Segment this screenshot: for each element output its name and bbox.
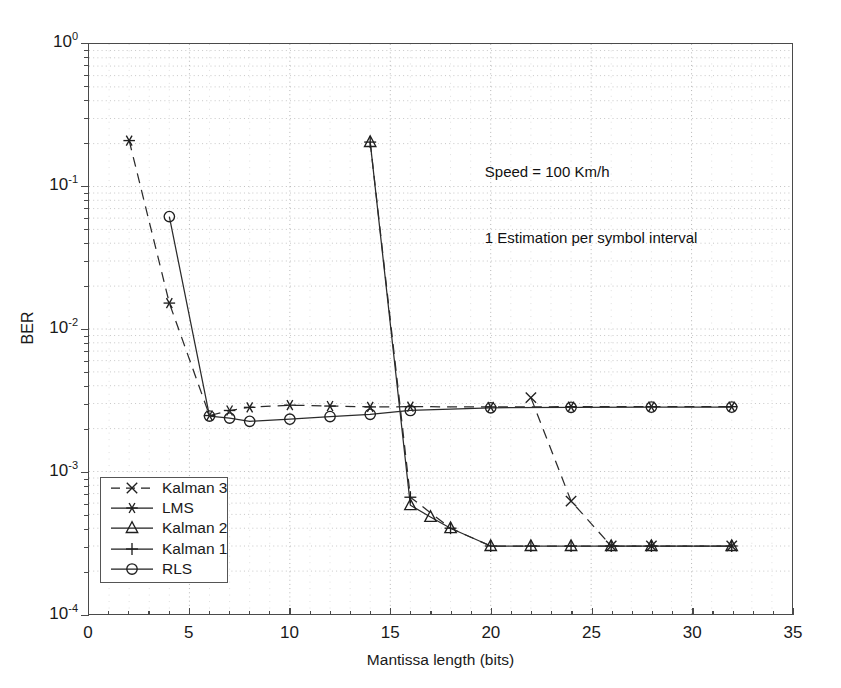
y-tick-mark xyxy=(84,351,89,352)
x-axis-title: Mantissa length (bits) xyxy=(88,651,793,669)
y-tick-mark xyxy=(84,200,89,201)
annotation-line-2: 1 Estimation per symbol interval xyxy=(485,227,698,249)
y-tick-mark xyxy=(84,479,89,480)
y-tick-mark xyxy=(84,57,89,58)
x-tick-mark xyxy=(390,608,391,615)
x-tick-mark xyxy=(491,608,492,615)
annotation-line-1: Speed = 100 Km/h xyxy=(485,161,698,183)
legend-item-lms[interactable]: LMS xyxy=(101,498,227,518)
x-minor-tick-mark xyxy=(632,611,633,615)
y-tick-mark xyxy=(84,143,89,144)
y-tick-mark xyxy=(84,404,89,405)
x-minor-tick-mark xyxy=(712,611,713,615)
x-minor-tick-mark xyxy=(370,611,371,615)
x-minor-tick-mark xyxy=(652,611,653,615)
x-minor-tick-mark xyxy=(229,611,230,615)
y-tick-mark xyxy=(84,386,89,387)
y-tick-mark xyxy=(84,572,89,573)
y-tick-label-2: 10-2 xyxy=(49,319,78,336)
x-minor-tick-mark xyxy=(511,611,512,615)
x-tick-mark xyxy=(592,608,593,615)
y-tick-mark xyxy=(84,343,89,344)
x-minor-tick-mark xyxy=(451,611,452,615)
figure: 10010-110-210-310-4 05101520253035 BER M… xyxy=(0,0,841,688)
legend-label: RLS xyxy=(162,560,192,578)
series-kalman-3 xyxy=(526,392,737,551)
legend-label: LMS xyxy=(162,499,194,517)
y-tick-mark xyxy=(81,472,89,473)
y-tick-mark xyxy=(84,193,89,194)
y-tick-mark xyxy=(84,286,89,287)
legend-item-kalman-2[interactable]: Kalman 2 xyxy=(101,518,227,538)
x-minor-tick-mark xyxy=(612,611,613,615)
x-tick-label-7: 35 xyxy=(768,624,818,641)
x-tick-label-0: 0 xyxy=(63,624,113,641)
x-minor-tick-mark xyxy=(108,611,109,615)
x-minor-tick-mark xyxy=(672,611,673,615)
x-minor-tick-mark xyxy=(148,611,149,615)
x-minor-tick-mark xyxy=(753,611,754,615)
y-tick-mark xyxy=(81,43,89,44)
y-tick-mark xyxy=(84,118,89,119)
y-tick-mark xyxy=(84,486,89,487)
x-minor-tick-mark xyxy=(350,611,351,615)
y-tick-mark xyxy=(84,75,89,76)
y-tick-mark xyxy=(81,615,89,616)
legend-label: Kalman 1 xyxy=(162,540,227,558)
x-minor-tick-mark xyxy=(430,611,431,615)
legend-marker-x-icon xyxy=(108,478,156,498)
y-tick-label-4: 10-4 xyxy=(49,605,78,622)
y-tick-mark xyxy=(84,100,89,101)
x-tick-mark xyxy=(88,608,89,615)
y-tick-mark xyxy=(84,494,89,495)
x-minor-tick-mark xyxy=(209,611,210,615)
x-minor-tick-mark xyxy=(733,611,734,615)
x-tick-label-1: 5 xyxy=(164,624,214,641)
x-tick-mark xyxy=(692,608,693,615)
y-tick-mark xyxy=(84,50,89,51)
x-tick-label-5: 25 xyxy=(567,624,617,641)
annotation-text: Speed = 100 Km/h 1 Estimation per symbol… xyxy=(485,118,698,292)
legend-item-kalman-3[interactable]: Kalman 3 xyxy=(101,478,227,498)
legend-marker-asterisk-icon xyxy=(108,498,156,518)
x-tick-label-2: 10 xyxy=(264,624,314,641)
y-tick-mark xyxy=(84,515,89,516)
y-tick-mark xyxy=(84,504,89,505)
x-minor-tick-mark xyxy=(773,611,774,615)
y-tick-mark xyxy=(84,261,89,262)
legend-marker-plus-icon xyxy=(108,539,156,559)
x-minor-tick-mark xyxy=(571,611,572,615)
x-minor-tick-mark xyxy=(128,611,129,615)
y-tick-mark xyxy=(84,208,89,209)
x-tick-mark xyxy=(189,608,190,615)
x-minor-tick-mark xyxy=(471,611,472,615)
x-minor-tick-mark xyxy=(249,611,250,615)
y-tick-mark xyxy=(84,229,89,230)
y-axis-title: BER xyxy=(19,308,37,348)
y-tick-label-1: 10-1 xyxy=(49,176,78,193)
x-minor-tick-mark xyxy=(310,611,311,615)
y-tick-mark xyxy=(84,65,89,66)
x-tick-label-4: 20 xyxy=(466,624,516,641)
x-tick-mark xyxy=(793,608,794,615)
x-minor-tick-mark xyxy=(269,611,270,615)
x-minor-tick-mark xyxy=(531,611,532,615)
y-tick-mark xyxy=(84,529,89,530)
x-tick-label-6: 30 xyxy=(667,624,717,641)
y-tick-mark xyxy=(84,86,89,87)
x-minor-tick-mark xyxy=(330,611,331,615)
x-tick-label-3: 15 xyxy=(365,624,415,641)
x-tick-mark xyxy=(289,608,290,615)
legend-item-kalman-1[interactable]: Kalman 1 xyxy=(101,539,227,559)
x-minor-tick-mark xyxy=(410,611,411,615)
legend-marker-triangle-icon xyxy=(108,518,156,538)
y-tick-mark xyxy=(84,429,89,430)
x-minor-tick-mark xyxy=(169,611,170,615)
legend-item-rls[interactable]: RLS xyxy=(101,559,227,579)
y-tick-mark xyxy=(84,361,89,362)
legend-label: Kalman 2 xyxy=(162,519,227,537)
y-tick-label-3: 10-3 xyxy=(49,462,78,479)
y-tick-mark xyxy=(84,218,89,219)
y-tick-mark xyxy=(84,372,89,373)
y-tick-mark xyxy=(81,186,89,187)
